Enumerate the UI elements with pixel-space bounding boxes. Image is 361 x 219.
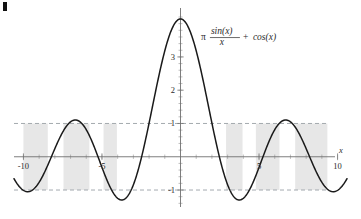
function-label: π sin(x) x + cos(x) [201, 26, 276, 47]
plus-sign: + [243, 32, 248, 42]
figure-container: -10-5510 -1123 x π sin(x) x + cos(x) [0, 0, 361, 219]
fraction-numerator: sin(x) [211, 26, 233, 37]
function-plot: -10-5510 -1123 x π sin(x) x + cos(x) [0, 0, 361, 219]
x-tick-label: -10 [18, 161, 29, 171]
x-axis-label: x [338, 145, 343, 155]
x-tick-label: 10 [333, 161, 342, 171]
x-tick-label: -5 [98, 161, 105, 171]
y-tick-label: 2 [171, 85, 175, 95]
y-tick-label: -1 [168, 185, 175, 195]
fraction-denominator: x [219, 37, 225, 47]
y-tick-label: 1 [171, 118, 175, 128]
pi-symbol: π [201, 32, 206, 42]
x-tick-label: 5 [257, 161, 261, 171]
cosine-term: cos(x) [253, 32, 276, 43]
page-edge-mark [3, 2, 7, 11]
y-tick-label: 3 [171, 52, 175, 62]
